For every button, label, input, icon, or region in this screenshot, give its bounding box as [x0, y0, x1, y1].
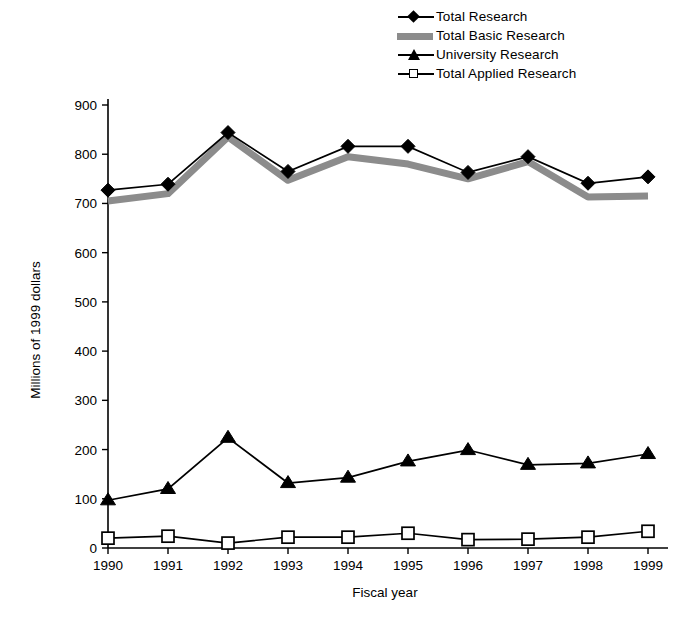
y-axis: 0100200300400500600700800900 — [74, 98, 108, 556]
y-axis-tick-label: 500 — [74, 295, 97, 310]
series-total-applied-research-marker — [642, 525, 654, 537]
x-axis-tick-label: 1996 — [453, 558, 483, 573]
y-axis-tick-label: 300 — [74, 393, 97, 408]
series-total-applied-research-marker — [222, 537, 234, 549]
series-total-research-marker — [401, 139, 415, 153]
y-axis-tick-label: 800 — [74, 147, 97, 162]
series-total-research-marker — [101, 183, 115, 197]
y-axis-title: Millions of 1999 dollars — [28, 261, 43, 399]
y-axis-tick-label: 900 — [74, 98, 97, 113]
y-axis-tick-label: 400 — [74, 344, 97, 359]
y-axis-tick-label: 700 — [74, 196, 97, 211]
series-university-research-marker — [461, 443, 476, 455]
x-axis-tick-label: 1995 — [393, 558, 423, 573]
x-axis-tick-label: 1997 — [513, 558, 543, 573]
series-total-research-marker — [641, 170, 655, 184]
plot-area: 0100200300400500600700800900 19901991199… — [0, 0, 682, 618]
series-university-research-marker — [221, 430, 236, 442]
series-university-research-marker — [161, 481, 176, 493]
x-axis-tick-label: 1993 — [273, 558, 303, 573]
y-axis-tick-label: 200 — [74, 443, 97, 458]
x-axis-tick-label: 1994 — [333, 558, 364, 573]
series-total-research-marker — [341, 139, 355, 153]
series-total-applied-research-line — [108, 531, 648, 543]
series-university-research-line — [108, 438, 648, 501]
x-axis-tick-label: 1999 — [633, 558, 663, 573]
series-total-applied-research-marker — [162, 530, 174, 542]
x-axis-tick-label: 1991 — [153, 558, 183, 573]
data-series-group — [101, 126, 656, 550]
chart-figure: Total Research Total Basic Research Univ… — [0, 0, 682, 618]
series-total-research-marker — [581, 176, 595, 190]
x-axis-tick-label: 1998 — [573, 558, 603, 573]
x-axis-tick-label: 1992 — [213, 558, 243, 573]
x-axis: 1990199119921993199419951996199719981999 — [93, 548, 668, 573]
series-total-applied-research-marker — [402, 527, 414, 539]
x-axis-title: Fiscal year — [352, 585, 418, 600]
series-university-research-marker — [641, 447, 656, 459]
y-axis-tick-label: 100 — [74, 492, 97, 507]
y-axis-tick-label: 600 — [74, 246, 97, 261]
series-total-applied-research-marker — [282, 531, 294, 543]
series-total-applied-research-marker — [582, 531, 594, 543]
series-total-applied-research-marker — [102, 532, 114, 544]
y-axis-tick-label: 0 — [89, 541, 97, 556]
series-university-research-marker — [281, 476, 296, 488]
x-axis-tick-label: 1990 — [93, 558, 123, 573]
series-total-applied-research-marker — [522, 533, 534, 545]
series-total-applied-research-marker — [342, 531, 354, 543]
series-total-applied-research-marker — [462, 534, 474, 546]
